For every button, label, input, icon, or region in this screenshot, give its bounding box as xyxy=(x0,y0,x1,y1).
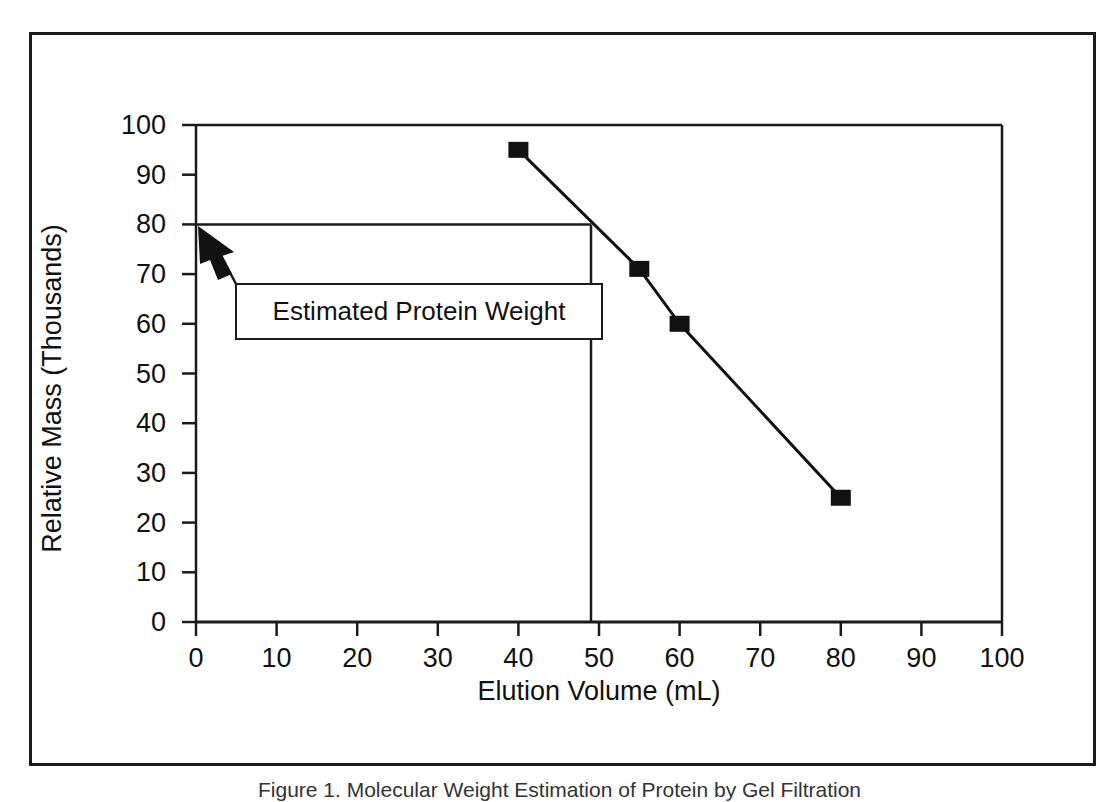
figure-caption: Figure 1. Molecular Weight Estimation of… xyxy=(0,778,1119,802)
figure-border xyxy=(29,32,1096,766)
